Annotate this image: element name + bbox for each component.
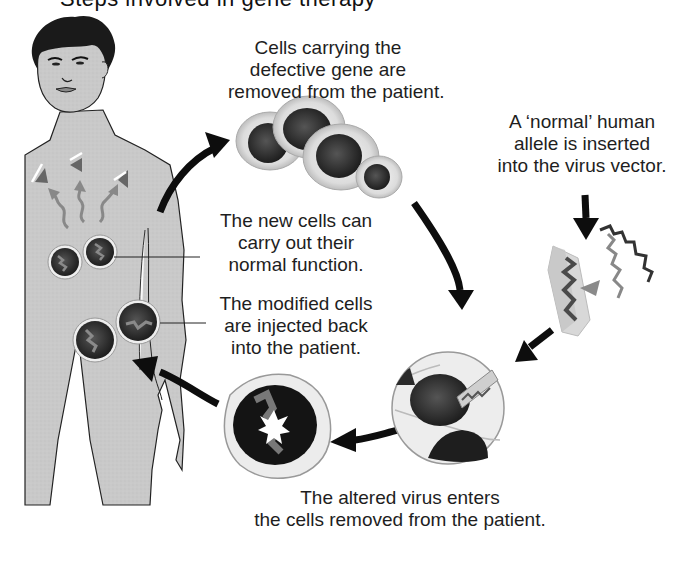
arrow-to-vector-icon <box>573 218 599 240</box>
modified-cell <box>224 374 330 478</box>
gene-therapy-diagram: Steps involved in gene therapy <box>0 0 694 566</box>
label-new-cells-function: The new cells can carry out their normal… <box>196 210 396 276</box>
label-allele-inserted: A ‘normal’ human allele is inserted into… <box>470 111 694 177</box>
arrow-down-icon <box>448 290 474 310</box>
infected-cell <box>392 352 504 464</box>
label-modified-cells-injected: The modified cells are injected back int… <box>196 293 396 359</box>
label-virus-enters: The altered virus enters the cells remov… <box>210 487 590 531</box>
arrow-to-modified-cell-icon <box>330 428 356 452</box>
virus-vector <box>548 226 652 336</box>
patient-figure <box>25 16 206 505</box>
removed-cells-cluster <box>236 96 402 198</box>
label-cells-removed: Cells carrying the defective gene are re… <box>228 37 428 103</box>
